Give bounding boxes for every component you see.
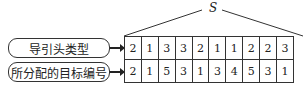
row-label-target-id: 所分配的目标编号 xyxy=(8,62,110,82)
span-label-s: S xyxy=(209,1,217,15)
table-cell: 1 xyxy=(141,36,159,60)
target-id-row: 2 1 5 3 1 3 4 5 3 1 xyxy=(124,59,294,83)
table-cell: 2 xyxy=(124,59,142,83)
arrow-icon xyxy=(110,71,124,73)
table-cell: 1 xyxy=(208,36,226,60)
table-cell: 3 xyxy=(208,59,226,83)
table-cell: 3 xyxy=(158,36,176,60)
table-cell: 3 xyxy=(175,36,193,60)
table-cell: 5 xyxy=(158,59,176,83)
table-cell: 3 xyxy=(276,36,294,60)
arrow-icon xyxy=(110,47,124,49)
table-cell: 2 xyxy=(259,36,277,60)
table-cell: 5 xyxy=(242,59,260,83)
row-label-seeker-type: 导引头类型 xyxy=(8,38,110,58)
table-cell: 3 xyxy=(259,59,277,83)
table-cell: 3 xyxy=(175,59,193,83)
table-cell: 1 xyxy=(141,59,159,83)
table-cell: 1 xyxy=(192,59,210,83)
table-cell: 2 xyxy=(124,36,142,60)
table-cell: 1 xyxy=(276,59,294,83)
table-cell: 1 xyxy=(225,36,243,60)
table-cell: 2 xyxy=(192,36,210,60)
table-cell: 2 xyxy=(242,36,260,60)
seeker-type-row: 2 1 3 3 2 1 1 2 2 3 xyxy=(124,36,294,60)
table-cell: 4 xyxy=(225,59,243,83)
